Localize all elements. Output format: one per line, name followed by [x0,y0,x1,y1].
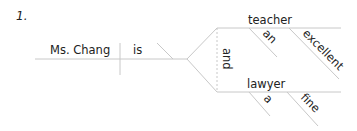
modifier-2b: fine [298,90,323,115]
fork-bottom [187,59,217,92]
modifier-1a: an [260,26,280,46]
problem-number: 1. [16,9,27,23]
complement-word-1: teacher [248,13,292,27]
modifier-1b: excellent [300,26,347,73]
complement-word-2: lawyer [247,77,286,91]
complement-slash [157,43,173,59]
fork-top [187,28,217,59]
sentence-diagram: 1. Ms. Chang is and teacher an excellent… [0,0,357,131]
verb-word: is [133,43,142,57]
conjunction-word: and [220,48,234,70]
subject-word: Ms. Chang [50,43,110,57]
modifier-2a: a [261,91,276,106]
